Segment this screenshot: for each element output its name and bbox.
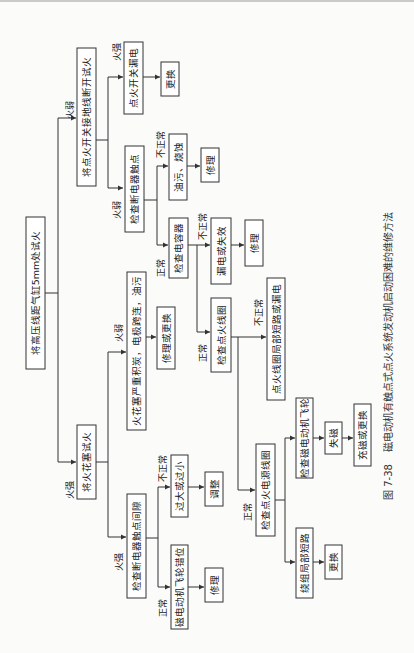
svg-text:过大或过小: 过大或过小 (174, 461, 185, 511)
svg-text:磁电动机飞轮错位: 磁电动机飞轮错位 (174, 547, 185, 627)
caption-number: 图 7-38 (383, 464, 394, 500)
svg-text:将高压线距气缸5mm处试火: 将高压线距气缸5mm处试火 (30, 231, 41, 356)
node-flywheel-slip: 磁电动机飞轮错位 (171, 545, 188, 629)
svg-text:调整: 调整 (209, 479, 220, 499)
node-oil-repair: 修理 (201, 148, 219, 182)
svg-text:不正常: 不正常 (155, 131, 166, 158)
svg-text:检查断电器触点: 检查断电器触点 (129, 154, 140, 224)
svg-text:漏电或失效: 漏电或失效 (216, 226, 227, 276)
svg-text:更换: 更换 (328, 552, 339, 572)
svg-text:正常: 正常 (197, 344, 208, 362)
node-plug-test: 将火花塞试火 (77, 425, 96, 499)
svg-text:火弱: 火弱 (112, 201, 122, 219)
node-switch-leak: 点火开关漏电 (124, 42, 143, 114)
svg-text:将点火开关接地线断开试火: 将点火开关接地线断开试火 (81, 57, 92, 177)
flowchart-figure: 将高压线距气缸5mm处试火 将点火开关接地线断开试火 点火开关漏电 更换 检查断… (0, 0, 414, 653)
node-check-source-coil: 检查点火电源线圈 (256, 444, 275, 536)
svg-text:火强: 火强 (114, 553, 124, 571)
svg-text:不正常: 不正常 (157, 455, 168, 482)
svg-text:将火花塞试火: 将火花塞试火 (81, 432, 92, 492)
flowchart-canvas: 将高压线距气缸5mm处试火 将点火开关接地线断开试火 点火开关漏电 更换 检查断… (0, 0, 414, 653)
svg-text:正常: 正常 (155, 259, 166, 277)
node-capacitor-repair: 修理 (245, 220, 263, 266)
svg-text:火强: 火强 (112, 43, 122, 61)
node-coil-short: 点火线圈局部短路或漏电 (267, 278, 285, 400)
svg-text:失磁: 失磁 (328, 428, 339, 448)
svg-text:修理: 修理 (209, 575, 220, 595)
node-remag: 充磁或更换 (354, 404, 371, 466)
node-winding-short: 绕组局部短路 (296, 528, 313, 598)
svg-text:点火开关漏电: 点火开关漏电 (128, 48, 139, 108)
node-root: 将高压线距气缸5mm处试火 (26, 217, 45, 369)
node-plug-carbon: 火花塞严重积炭，电极跨连，油污 (127, 272, 146, 430)
node-check-coil: 检查点火线圈 (211, 298, 231, 372)
node-demag: 失磁 (325, 422, 342, 454)
caption-title: 磁电动机有触点式点火系统发动机启动困难的维修方法 (382, 212, 394, 452)
node-check-capacitor: 检查电容器 (169, 218, 188, 278)
svg-text:充磁或更换: 充磁或更换 (357, 410, 368, 460)
svg-text:火强: 火强 (65, 481, 75, 499)
node-check-gap: 检查断电器触点间隙 (127, 494, 146, 598)
svg-text:绕组局部短路: 绕组局部短路 (299, 533, 310, 593)
node-oil-burn: 油污、烧蚀 (169, 134, 187, 200)
svg-text:修理或更换: 修理或更换 (161, 313, 172, 363)
svg-text:更换: 更换 (165, 69, 176, 89)
node-gap-adjust: 调整 (205, 472, 223, 506)
svg-text:检查磁电动机飞轮: 检查磁电动机飞轮 (299, 398, 310, 478)
svg-text:油污、烧蚀: 油污、烧蚀 (173, 142, 184, 192)
node-switch-test: 将点火开关接地线断开试火 (77, 48, 96, 186)
svg-text:检查点火线圈: 检查点火线圈 (216, 305, 227, 365)
svg-text:正常: 正常 (242, 503, 253, 521)
svg-text:点火线圈局部短路或漏电: 点火线圈局部短路或漏电 (271, 284, 282, 394)
figure-caption: 图 7-38 磁电动机有触点式点火系统发动机启动困难的维修方法 (382, 212, 394, 500)
node-gap-bad: 过大或过小 (171, 455, 188, 517)
node-check-contact: 检查断电器触点 (125, 146, 144, 232)
svg-text:修理: 修理 (249, 233, 260, 253)
node-flywheel-repair: 修理 (205, 568, 223, 602)
node-plug-fix: 修理或更换 (157, 307, 175, 369)
node-check-flywheel: 检查磁电动机飞轮 (296, 398, 313, 478)
svg-text:检查断电器触点间隙: 检查断电器触点间隙 (131, 501, 142, 591)
svg-text:修理: 修理 (205, 155, 216, 175)
svg-text:不正常: 不正常 (253, 299, 264, 326)
node-capacitor-fail: 漏电或失效 (211, 218, 231, 284)
svg-text:火弱: 火弱 (114, 324, 124, 342)
svg-text:检查电容器: 检查电容器 (173, 223, 184, 273)
svg-text:检查点火电源线圈: 检查点火电源线圈 (260, 450, 271, 530)
svg-text:火花塞严重积炭，电极跨连，油污: 火花塞严重积炭，电极跨连，油污 (131, 276, 142, 426)
node-winding-replace: 更换 (325, 545, 342, 579)
node-switch-replace: 更换 (161, 62, 179, 96)
svg-text:不正常: 不正常 (197, 213, 208, 240)
svg-text:火弱: 火弱 (65, 101, 75, 119)
svg-text:正常: 正常 (157, 599, 168, 617)
